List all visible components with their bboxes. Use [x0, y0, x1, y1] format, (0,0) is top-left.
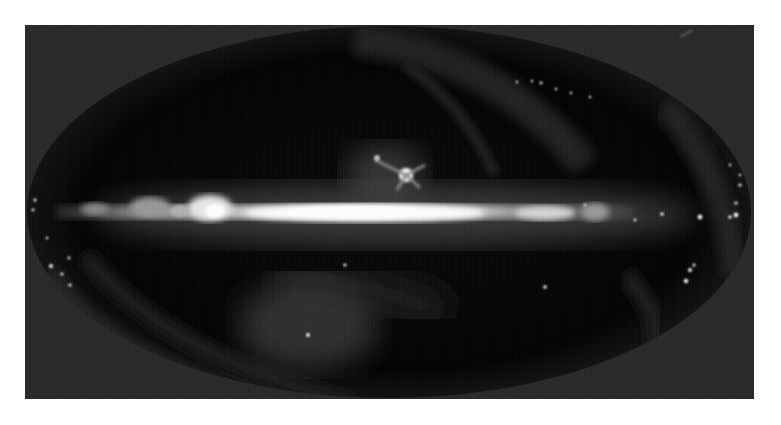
- all-sky-infrared-map: [25, 25, 754, 399]
- sky-map-frame: [25, 25, 754, 399]
